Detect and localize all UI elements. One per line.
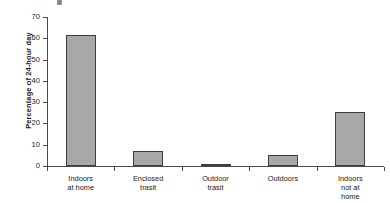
x-category-label-line: at home bbox=[47, 183, 114, 192]
x-category-label-line: home bbox=[317, 192, 384, 201]
bar bbox=[66, 35, 96, 166]
x-category-label: Enclosedtrasit bbox=[114, 174, 181, 192]
bar-chart: Percentage of 24-hour day 01020304050607… bbox=[0, 0, 390, 203]
x-category-label-line: Outdoors bbox=[249, 174, 316, 183]
x-tick bbox=[317, 167, 318, 171]
x-tick bbox=[384, 167, 385, 171]
x-tick bbox=[249, 167, 250, 171]
y-tick-label: 10 bbox=[32, 140, 40, 149]
y-tick: 60 bbox=[43, 38, 47, 39]
y-tick-label: 60 bbox=[32, 33, 40, 42]
y-tick-label: 0 bbox=[36, 161, 40, 170]
y-tick-label: 40 bbox=[32, 76, 40, 85]
x-category-label-line: trasit bbox=[114, 183, 181, 192]
y-tick-label: 50 bbox=[32, 55, 40, 64]
x-category-label-line: Outdoor bbox=[182, 174, 249, 183]
y-tick-label: 20 bbox=[32, 118, 40, 127]
x-axis-line bbox=[47, 166, 384, 167]
x-category-label-line: Indoors bbox=[317, 174, 384, 183]
x-category-label-line: Enclosed bbox=[114, 174, 181, 183]
x-category-label: Outdoortrasit bbox=[182, 174, 249, 192]
bar bbox=[133, 151, 163, 166]
x-category-label: Indoorsat home bbox=[47, 174, 114, 192]
x-category-label-line: not at bbox=[317, 183, 384, 192]
y-tick: 70 bbox=[43, 17, 47, 18]
bar bbox=[268, 155, 298, 166]
bar bbox=[201, 164, 231, 166]
x-tick bbox=[114, 167, 115, 171]
y-tick-label: 30 bbox=[32, 97, 40, 106]
x-tick bbox=[47, 167, 48, 171]
y-tick-label: 70 bbox=[32, 12, 40, 21]
y-axis-line bbox=[47, 17, 48, 166]
y-tick: 10 bbox=[43, 145, 47, 146]
x-category-label: Outdoors bbox=[249, 174, 316, 183]
scan-artifact-mark bbox=[57, 0, 62, 5]
x-tick bbox=[182, 167, 183, 171]
y-tick: 30 bbox=[43, 102, 47, 103]
y-tick: 40 bbox=[43, 81, 47, 82]
y-tick: 20 bbox=[43, 123, 47, 124]
bar bbox=[335, 112, 365, 166]
y-tick: 50 bbox=[43, 60, 47, 61]
plot-area: 010203040506070 Indoorsat homeEnclosedtr… bbox=[47, 17, 384, 167]
x-category-label: Indoorsnot athome bbox=[317, 174, 384, 202]
x-category-label-line: Indoors bbox=[47, 174, 114, 183]
x-category-label-line: trasit bbox=[182, 183, 249, 192]
